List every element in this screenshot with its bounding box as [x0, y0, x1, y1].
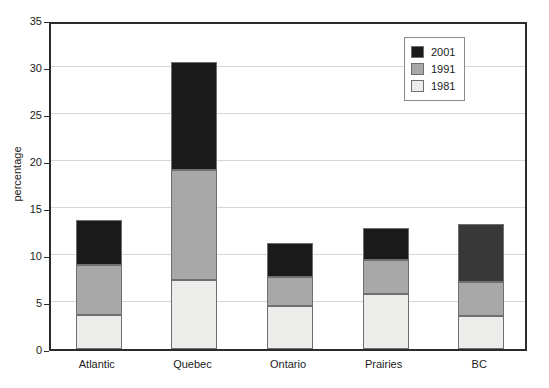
y-tick-label: 25 [30, 110, 42, 121]
y-tick-mark [44, 351, 49, 352]
x-tick-label-atlantic: Atlantic [79, 358, 115, 370]
x-axis: AtlanticQuebecOntarioPrairiesBC [49, 356, 527, 380]
y-axis: 05101520253035 [0, 0, 49, 388]
legend-item-1991[interactable]: 1991 [411, 61, 455, 77]
bar-segment[interactable] [267, 243, 313, 277]
bar-group[interactable] [363, 24, 409, 349]
bar-segment[interactable] [171, 62, 217, 170]
legend-swatch-icon [411, 63, 424, 75]
legend-label: 2001 [431, 46, 455, 58]
bar-segment[interactable] [363, 228, 409, 260]
bar-segment[interactable] [458, 282, 504, 316]
bar-segment[interactable] [363, 260, 409, 294]
bar-group[interactable] [171, 24, 217, 349]
chart-legend: 200119911981 [404, 37, 465, 101]
y-tick-label: 10 [30, 251, 42, 262]
legend-item-2001[interactable]: 2001 [411, 44, 455, 60]
bar-group[interactable] [76, 24, 122, 349]
x-tick-label-bc: BC [472, 358, 487, 370]
bar-segment[interactable] [76, 220, 122, 265]
x-tick-label-quebec: Quebec [173, 358, 212, 370]
y-axis-title: percentage [11, 129, 23, 219]
bar-segment[interactable] [363, 294, 409, 349]
legend-swatch-icon [411, 80, 424, 92]
bar-segment[interactable] [76, 315, 122, 349]
bar-segment[interactable] [171, 280, 217, 349]
legend-label: 1981 [431, 80, 455, 92]
y-tick-label: 15 [30, 204, 42, 215]
y-tick-label: 30 [30, 63, 42, 74]
x-tick-label-ontario: Ontario [270, 358, 306, 370]
stacked-bar-chart: 05101520253035 percentage AtlanticQuebec… [0, 0, 549, 388]
y-tick-label: 0 [36, 345, 42, 356]
bar-segment[interactable] [171, 170, 217, 280]
bar-segment[interactable] [458, 224, 504, 282]
legend-swatch-icon [411, 46, 424, 58]
bar-segment[interactable] [76, 265, 122, 315]
x-tick-label-prairies: Prairies [365, 358, 402, 370]
y-tick-label: 20 [30, 157, 42, 168]
bar-segment[interactable] [458, 316, 504, 349]
legend-item-1981[interactable]: 1981 [411, 78, 455, 94]
y-tick-label: 35 [30, 16, 42, 27]
bar-segment[interactable] [267, 277, 313, 306]
bar-segment[interactable] [267, 306, 313, 349]
y-tick-label: 5 [36, 298, 42, 309]
legend-label: 1991 [431, 63, 455, 75]
bar-group[interactable] [267, 24, 313, 349]
